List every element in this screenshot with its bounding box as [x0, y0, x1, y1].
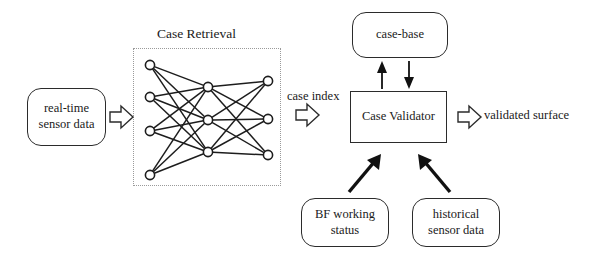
- arrow-up-left-icon: [418, 154, 450, 192]
- box-historical-sensor-data-line2: sensor data: [428, 223, 484, 239]
- box-case-base[interactable]: case-base: [352, 12, 448, 58]
- case-retrieval-zone: [133, 48, 281, 186]
- case-retrieval-label: Case Retrieval: [157, 26, 236, 42]
- box-bf-working-status-line1: BF working: [315, 207, 375, 223]
- diagram-canvas: Case Retrieval real-time sensor data cas…: [0, 0, 602, 257]
- box-case-base-line1: case-base: [376, 27, 424, 43]
- block-arrow-right-icon-output: [458, 106, 481, 128]
- box-case-validator-line1: Case Validator: [362, 109, 435, 125]
- box-realtime-sensor-data-line1: real-time: [44, 101, 89, 117]
- block-arrow-right-icon-index: [296, 104, 319, 126]
- box-historical-sensor-data-line1: historical: [433, 207, 480, 223]
- arrow-up-right-icon: [349, 154, 381, 192]
- box-bf-working-status[interactable]: BF working status: [301, 198, 389, 247]
- arrow-up-icon: [377, 61, 387, 89]
- box-realtime-sensor-data[interactable]: real-time sensor data: [27, 88, 106, 146]
- case-index-label: case index: [287, 89, 339, 104]
- box-bf-working-status-line2: status: [331, 223, 359, 239]
- box-realtime-sensor-data-line2: sensor data: [39, 117, 95, 133]
- arrow-down-icon: [404, 61, 414, 89]
- validated-surface-label: validated surface: [484, 108, 569, 123]
- box-historical-sensor-data[interactable]: historical sensor data: [412, 198, 500, 247]
- box-case-validator[interactable]: Case Validator: [350, 91, 447, 143]
- block-arrow-right-icon-input: [110, 106, 133, 128]
